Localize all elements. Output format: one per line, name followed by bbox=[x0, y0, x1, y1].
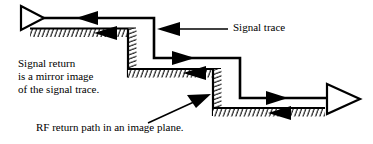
return-band-middle bbox=[128, 69, 221, 78]
label-signal-return: Signal return is a mirror image of the s… bbox=[18, 57, 99, 96]
label-signal-return-line-3: of the signal trace. bbox=[18, 83, 99, 96]
signal-return-path-figure: Signal trace Signal return is a mirror i… bbox=[0, 0, 373, 144]
leader-signal-trace bbox=[157, 22, 228, 36]
label-signal-return-line-2: is a mirror image bbox=[18, 70, 99, 83]
return-band-upper bbox=[30, 29, 136, 38]
trace-forward-arrow-3 bbox=[266, 91, 288, 105]
return-band-lower bbox=[213, 108, 325, 117]
return-direction-arrows bbox=[94, 26, 291, 120]
label-rf-return-path: RF return path in an image plane. bbox=[36, 121, 184, 134]
leader-rf-return bbox=[148, 94, 211, 123]
receiver-triangle bbox=[327, 84, 360, 114]
label-signal-return-line-1: Signal return bbox=[18, 57, 99, 70]
trace-forward-arrow-2 bbox=[172, 51, 195, 65]
label-signal-trace: Signal trace bbox=[233, 21, 285, 34]
trace-forward-arrow-1 bbox=[76, 11, 98, 25]
driver-triangle bbox=[21, 6, 44, 30]
label-signal-trace-text: Signal trace bbox=[233, 21, 285, 34]
label-rf-return-text: RF return path in an image plane. bbox=[36, 121, 184, 134]
